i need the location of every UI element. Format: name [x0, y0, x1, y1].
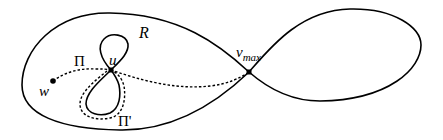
path-label-pi-prime: Π' [118, 114, 132, 129]
figure-eight-diagram [0, 0, 443, 140]
node-vmax [247, 70, 252, 75]
vertex-label-vmax-sub: max [243, 51, 261, 63]
vertex-label-w: w [39, 84, 49, 99]
node-u [109, 68, 114, 73]
outer-left-lobe [22, 13, 249, 130]
path-pi-to-vmax [111, 70, 249, 87]
inner-lower-loop [86, 70, 120, 115]
vertex-label-u: u [109, 53, 117, 68]
region-label-r: R [139, 25, 149, 41]
vertex-label-vmax-base: v [236, 44, 243, 60]
path-label-pi: Π [74, 54, 85, 69]
outer-right-lobe [249, 9, 421, 101]
node-w [50, 78, 56, 84]
vertex-label-vmax: vmax [236, 45, 261, 60]
